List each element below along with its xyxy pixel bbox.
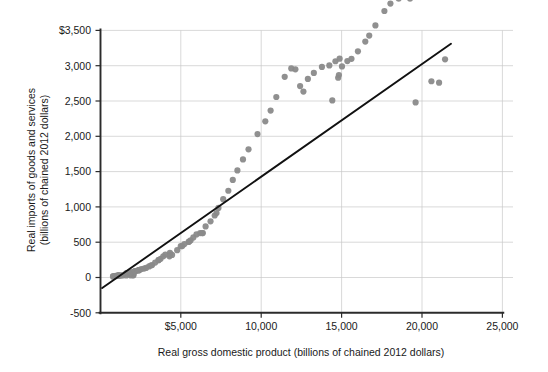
scatter-points [110,0,448,280]
data-point [366,32,372,38]
data-point [262,118,268,124]
y-axis-title-line-1: Real imports of goods and services [25,88,37,252]
y-axis-tick-labels: $3,500 3,000 2,500 2,000 1,500 1,000 500… [59,24,91,318]
y-tick-label-minus500: -500 [70,307,91,319]
y-tick-label-1000: 1,000 [65,201,91,213]
x-axis-tick-labels: $5,000 10,000 15,000 20,000 25,000 [165,320,519,332]
data-point [329,97,335,103]
x-tick-label-10000: 10,000 [245,320,277,332]
data-point [297,83,303,89]
data-point [436,80,442,86]
data-point [348,56,354,62]
data-point [396,0,402,2]
horizontal-gridlines [101,30,514,277]
x-axis-title: Real gross domestic product (billions of… [158,346,445,358]
data-point [254,131,260,137]
data-point [362,38,368,44]
data-point [282,74,288,80]
data-point [335,75,341,81]
x-tick-label-25000: 25,000 [486,320,518,332]
data-point [305,76,311,82]
data-point [273,94,279,100]
data-point [412,99,418,105]
data-point [169,252,175,258]
data-point [200,230,206,236]
data-point [387,0,393,6]
data-point [326,62,332,68]
y-tick-label-0: 0 [85,271,91,283]
data-point [225,188,231,194]
y-tick-label-3000: 3,000 [65,60,91,72]
scatter-plot-figure: $3,500 3,000 2,500 2,000 1,500 1,000 500… [0,0,548,372]
trend-line [102,44,451,288]
data-point [372,22,378,28]
y-tick-label-500: 500 [73,236,91,248]
data-point [292,66,298,72]
data-point [240,156,246,162]
data-point [300,88,306,94]
data-point [268,108,274,114]
x-tick-label-20000: 20,000 [406,320,438,332]
data-point [381,8,387,14]
data-point [203,223,209,229]
y-tick-label-2000: 2,000 [65,130,91,142]
data-point [319,64,325,70]
data-point [207,218,213,224]
data-point [311,70,317,76]
data-point [442,56,448,62]
data-point [234,167,240,173]
data-point [407,0,413,2]
y-tick-label-2500: 2,500 [65,95,91,107]
chart-canvas: $3,500 3,000 2,500 2,000 1,500 1,000 500… [0,0,548,372]
x-tick-label-5000: $5,000 [165,320,197,332]
y-axis-title-line-2: (billions of chained 2012 dollars) [38,95,50,246]
y-tick-label-3500: $3,500 [59,24,91,36]
data-point [230,177,236,183]
data-point [339,63,345,69]
y-tick-label-1500: 1,500 [65,165,91,177]
y-axis-title: Real imports of goods and services (bill… [25,88,50,252]
data-point [428,78,434,84]
data-point [337,56,343,62]
data-point [245,146,251,152]
x-tick-label-15000: 15,000 [326,320,358,332]
data-point [355,48,361,54]
